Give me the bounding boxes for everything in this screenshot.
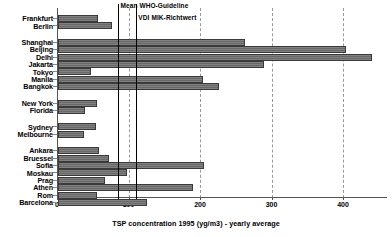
bar-fill: [58, 162, 204, 169]
gridline-200: [200, 8, 201, 198]
bar-prag: [58, 177, 105, 184]
y-tick-mark-rom: [53, 195, 57, 196]
y-tick-mark-new york: [53, 103, 57, 104]
gridline-100: [129, 8, 130, 198]
y-tick-mark-ankara: [53, 150, 57, 151]
reference-line-vdi-mik: [136, 4, 137, 199]
x-tick-label-300: 300: [266, 201, 278, 208]
y-tick-mark-prag: [53, 180, 57, 181]
x-axis-line: [57, 197, 387, 198]
y-tick-mark-jakarta: [53, 64, 57, 65]
gridline-400: [343, 8, 344, 198]
bar-fill: [58, 68, 91, 75]
bar-beijing: [58, 46, 346, 53]
y-tick-mark-shanghai: [53, 42, 57, 43]
bar-sydney: [58, 123, 96, 130]
bar-new york: [58, 100, 97, 107]
bar-jakarta: [58, 61, 264, 68]
bar-fill: [58, 22, 112, 29]
x-tick-mark-400: [343, 197, 344, 200]
y-tick-mark-sofia: [53, 165, 57, 166]
x-tick-label-200: 200: [194, 201, 206, 208]
tsp-concentration-bar-chart: 0100200300400 FrankfurtBerlinShanghaiBei…: [0, 0, 392, 237]
bar-bangkok: [58, 83, 219, 90]
bar-shanghai: [58, 39, 245, 46]
bar-fill: [58, 199, 147, 206]
reference-label-who-guideline: Mean WHO-Guideline: [120, 2, 188, 9]
y-tick-mark-athen: [53, 187, 57, 188]
bar-ankara: [58, 147, 99, 154]
bar-barcelona: [58, 199, 147, 206]
y-tick-mark-beijing: [53, 49, 57, 50]
bar-fill: [58, 147, 99, 154]
bar-berlin: [58, 22, 112, 29]
bar-sofia: [58, 162, 204, 169]
bar-fill: [58, 155, 109, 162]
category-label-barcelona: Barcelona: [19, 199, 53, 206]
bar-fill: [58, 39, 245, 46]
y-tick-mark-berlin: [53, 25, 57, 26]
bar-melbourne: [58, 131, 84, 138]
y-tick-mark-moskau: [53, 172, 57, 173]
bar-florida: [58, 107, 85, 114]
gridline-300: [272, 8, 273, 198]
bar-fill: [58, 76, 203, 83]
bar-fill: [58, 177, 105, 184]
x-tick-mark-200: [200, 197, 201, 200]
x-tick-mark-300: [272, 197, 273, 200]
bar-frankfurt: [58, 15, 98, 22]
y-tick-mark-bruessel: [53, 158, 57, 159]
y-tick-mark-tokyo: [53, 71, 57, 72]
bar-fill: [58, 123, 96, 130]
bar-fill: [58, 15, 98, 22]
y-tick-mark-melbourne: [53, 134, 57, 135]
bar-bruessel: [58, 155, 109, 162]
bar-fill: [58, 131, 84, 138]
y-tick-mark-manila: [53, 79, 57, 80]
y-tick-mark-florida: [53, 110, 57, 111]
bar-rom: [58, 192, 97, 199]
x-tick-label-400: 400: [337, 201, 349, 208]
bar-fill: [58, 83, 219, 90]
bar-fill: [58, 46, 346, 53]
y-tick-mark-sydney: [53, 126, 57, 127]
y-tick-mark-frankfurt: [53, 18, 57, 19]
bar-tokyo: [58, 68, 91, 75]
bar-fill: [58, 100, 97, 107]
bar-fill: [58, 54, 372, 61]
bar-delhi: [58, 54, 372, 61]
category-label-melbourne: Melbourne: [18, 131, 53, 138]
bar-fill: [58, 61, 264, 68]
y-tick-mark-delhi: [53, 57, 57, 58]
reference-label-vdi-mik: VDI MIK-Richtwert: [138, 14, 196, 21]
category-label-bangkok: Bangkok: [23, 83, 53, 90]
bar-moskau: [58, 169, 127, 176]
bar-manila: [58, 76, 203, 83]
bar-fill: [58, 192, 97, 199]
category-label-berlin: Berlin: [33, 23, 53, 30]
x-axis-title: TSP concentration 1995 (yg/m3) - yearly …: [0, 219, 392, 228]
bar-fill: [58, 169, 127, 176]
y-tick-mark-barcelona: [53, 202, 57, 203]
bar-athen: [58, 184, 193, 191]
reference-line-who-guideline: [118, 4, 119, 199]
category-label-florida: Florida: [30, 107, 53, 114]
bar-fill: [58, 107, 85, 114]
y-tick-mark-bangkok: [53, 86, 57, 87]
bar-fill: [58, 184, 193, 191]
